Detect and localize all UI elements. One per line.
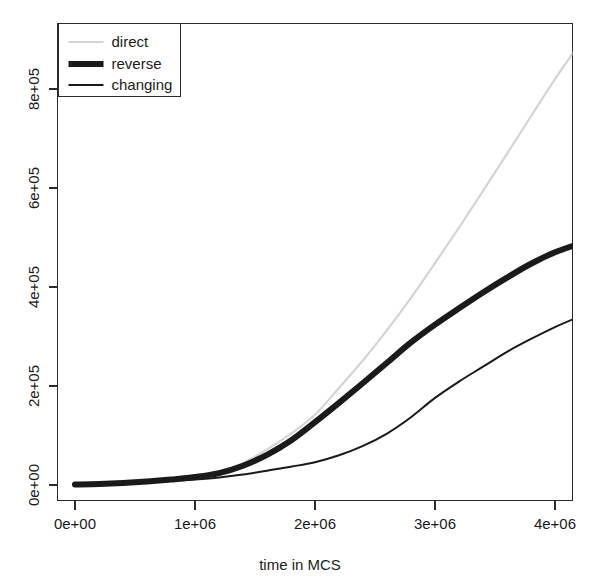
x-tick-label: 0e+00	[54, 515, 96, 532]
series-layer	[75, 44, 579, 484]
legend-label-direct: direct	[112, 33, 150, 50]
chart-container: 0e+001e+062e+063e+064e+06 0e+002e+054e+0…	[0, 0, 593, 587]
y-axis: 0e+002e+054e+056e+058e+05	[25, 68, 57, 506]
x-axis: 0e+001e+062e+063e+064e+06	[54, 501, 576, 532]
y-tick-label: 8e+05	[25, 68, 42, 110]
x-tick-label: 2e+06	[294, 515, 336, 532]
x-tick-label: 4e+06	[534, 515, 576, 532]
y-tick-label: 4e+05	[25, 266, 42, 308]
x-tick-label: 3e+06	[414, 515, 456, 532]
legend-label-changing: changing	[112, 76, 173, 93]
x-axis-title: time in MCS	[259, 556, 341, 573]
y-tick-label: 6e+05	[25, 167, 42, 209]
y-tick-label: 2e+05	[25, 365, 42, 407]
chart-legend: directreversechanging	[59, 24, 181, 97]
y-tick-label: 0e+00	[25, 464, 42, 506]
x-tick-label: 1e+06	[174, 515, 216, 532]
line-chart: 0e+001e+062e+063e+064e+06 0e+002e+054e+0…	[0, 0, 593, 587]
series-line-direct	[75, 44, 579, 484]
legend-label-reverse: reverse	[112, 55, 162, 72]
series-line-reverse	[75, 244, 579, 485]
